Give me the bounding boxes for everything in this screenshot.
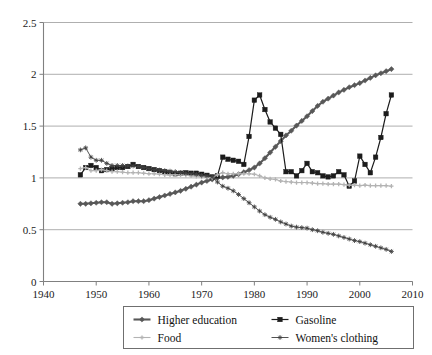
data-point bbox=[331, 232, 336, 237]
data-point bbox=[321, 181, 325, 185]
data-point bbox=[120, 200, 125, 205]
x-tick-label-5: 1990 bbox=[296, 288, 319, 300]
data-point bbox=[263, 212, 268, 217]
data-point bbox=[157, 194, 162, 199]
data-point bbox=[300, 180, 304, 184]
x-tick-label-6: 2000 bbox=[349, 288, 372, 300]
data-point bbox=[136, 164, 141, 169]
data-point bbox=[88, 201, 93, 206]
data-point bbox=[384, 247, 389, 252]
series-women-s-clothing bbox=[78, 145, 394, 253]
data-point bbox=[115, 170, 119, 174]
data-point bbox=[374, 184, 378, 188]
data-point bbox=[152, 172, 156, 176]
series-line bbox=[80, 148, 391, 252]
data-point bbox=[131, 171, 135, 175]
data-point bbox=[294, 225, 299, 230]
data-point bbox=[294, 180, 298, 184]
axes-group bbox=[44, 23, 413, 282]
data-point bbox=[142, 171, 146, 175]
data-point bbox=[168, 169, 173, 174]
y-axis-tick-labels: 00.511.522.5 bbox=[23, 17, 37, 288]
x-tick-label-0: 1940 bbox=[33, 288, 56, 300]
data-point bbox=[162, 168, 167, 173]
data-point bbox=[210, 174, 215, 179]
data-point bbox=[357, 239, 362, 244]
data-point bbox=[336, 169, 341, 174]
x-tick-label-7: 2010 bbox=[402, 288, 425, 300]
data-point bbox=[120, 170, 124, 174]
data-point bbox=[268, 177, 272, 181]
data-point bbox=[125, 164, 130, 169]
data-point bbox=[326, 182, 330, 186]
data-point bbox=[146, 198, 151, 203]
data-point bbox=[78, 148, 83, 153]
legend: Higher educationGasolineFoodWomen's clot… bbox=[124, 307, 414, 349]
data-point bbox=[373, 155, 378, 160]
data-point bbox=[141, 165, 146, 170]
data-point bbox=[384, 111, 389, 116]
data-point bbox=[173, 169, 178, 174]
data-point bbox=[252, 172, 256, 176]
data-point bbox=[215, 180, 220, 185]
data-point bbox=[231, 188, 236, 193]
data-point bbox=[220, 175, 225, 180]
legend-entry-women-s-clothing[interactable]: Women's clothing bbox=[272, 332, 379, 345]
data-point bbox=[78, 166, 82, 170]
data-point bbox=[226, 157, 231, 162]
data-point bbox=[279, 179, 283, 183]
data-point bbox=[342, 183, 346, 187]
y-tick-label-3: 1.5 bbox=[23, 120, 37, 132]
data-point bbox=[189, 171, 194, 176]
data-point bbox=[247, 134, 252, 139]
data-point bbox=[152, 167, 157, 172]
y-tick-label-2: 1 bbox=[31, 172, 37, 184]
data-point bbox=[284, 179, 288, 183]
data-point bbox=[241, 196, 246, 201]
data-point bbox=[300, 168, 305, 173]
data-point bbox=[379, 184, 383, 188]
legend-entry-gasoline[interactable]: Gasoline bbox=[272, 314, 337, 326]
legend-label: Women's clothing bbox=[296, 332, 379, 345]
data-point bbox=[273, 217, 278, 222]
data-point bbox=[320, 230, 325, 235]
data-point bbox=[389, 249, 394, 254]
data-point bbox=[226, 172, 230, 176]
data-point bbox=[363, 162, 368, 167]
data-point bbox=[289, 180, 293, 184]
data-point bbox=[389, 184, 393, 188]
data-point bbox=[368, 170, 373, 175]
data-point bbox=[326, 175, 331, 180]
data-point bbox=[236, 159, 241, 164]
data-point bbox=[347, 237, 352, 242]
data-point bbox=[352, 238, 357, 243]
x-tick-label-1: 1950 bbox=[85, 288, 108, 300]
data-point bbox=[242, 162, 247, 167]
chart-canvas: 00.511.522.5 194019501960197019801990200… bbox=[0, 0, 432, 355]
data-point bbox=[284, 222, 289, 227]
price-index-line-chart: 00.511.522.5 194019501960197019801990200… bbox=[0, 0, 432, 355]
data-point bbox=[273, 126, 278, 131]
data-point bbox=[310, 169, 315, 174]
legend-entry-food[interactable]: Food bbox=[134, 332, 182, 344]
data-point bbox=[315, 170, 320, 175]
legend-marker-icon bbox=[278, 317, 283, 322]
x-tick-label-4: 1980 bbox=[243, 288, 266, 300]
data-point bbox=[115, 201, 120, 206]
data-point bbox=[310, 181, 314, 185]
data-point bbox=[278, 132, 283, 137]
data-point bbox=[305, 161, 310, 166]
legend-label: Gasoline bbox=[296, 314, 337, 326]
data-point bbox=[221, 171, 225, 175]
legend-marker-icon bbox=[140, 335, 144, 339]
data-point bbox=[373, 244, 378, 249]
data-point bbox=[115, 163, 120, 168]
data-point bbox=[368, 184, 372, 188]
data-point bbox=[258, 174, 262, 178]
data-point bbox=[194, 172, 199, 177]
data-point bbox=[352, 183, 356, 187]
data-point bbox=[289, 224, 294, 229]
data-point bbox=[147, 166, 152, 171]
legend-entry-higher-education[interactable]: Higher education bbox=[134, 314, 238, 327]
data-point bbox=[78, 201, 83, 206]
